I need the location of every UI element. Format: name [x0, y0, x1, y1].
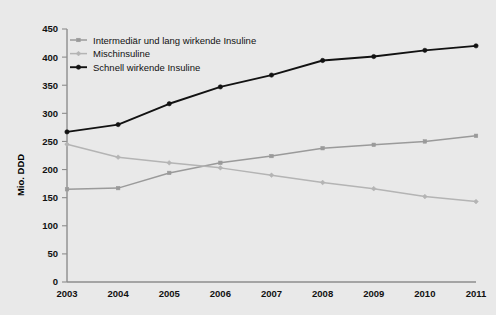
x-tick-label: 2007: [261, 288, 282, 299]
legend-label: Intermediär und lang wirkende Insuline: [93, 35, 256, 46]
data-point-marker: [116, 122, 120, 126]
x-tick-label: 2006: [210, 288, 231, 299]
y-tick-label: 50: [47, 248, 58, 259]
y-tick-label: 250: [42, 136, 58, 147]
y-tick-label: 200: [42, 164, 58, 175]
data-point-marker: [270, 154, 274, 158]
x-tick-label: 2011: [466, 288, 487, 299]
data-point-marker: [321, 146, 325, 150]
legend-item: Intermediär und lang wirkende Insuline: [70, 35, 256, 46]
data-point-marker: [167, 171, 171, 175]
data-point-marker: [372, 54, 376, 58]
data-point-marker: [423, 140, 427, 144]
legend-label: Schnell wirkende Insuline: [93, 62, 200, 73]
y-tick-label: 350: [42, 80, 58, 91]
chart-figure: Mio. DDD 050100150200250300350400450 200…: [0, 0, 496, 315]
data-point-marker: [423, 48, 427, 52]
data-point-marker: [372, 143, 376, 147]
data-point-marker: [77, 38, 81, 42]
data-point-marker: [320, 58, 324, 62]
x-tick-label: 2005: [159, 288, 181, 299]
y-axis-title: Mio. DDD: [15, 154, 26, 196]
data-point-marker: [218, 85, 222, 89]
chart-background: [0, 0, 496, 315]
data-point-marker: [269, 73, 273, 77]
data-point-marker: [116, 186, 120, 190]
line-chart: Mio. DDD 050100150200250300350400450 200…: [0, 0, 496, 315]
data-point-marker: [167, 102, 171, 106]
x-tick-label: 2008: [312, 288, 333, 299]
data-point-marker: [65, 130, 69, 134]
y-tick-label: 450: [42, 23, 58, 34]
x-axis-ticks: 200320042005200620072008200920102011: [56, 288, 487, 299]
legend-label: Mischinsuline: [93, 48, 150, 59]
x-tick-label: 2004: [108, 288, 130, 299]
x-tick-label: 2009: [363, 288, 384, 299]
x-tick-label: 2003: [56, 288, 77, 299]
x-tick-label: 2010: [414, 288, 435, 299]
data-point-marker: [65, 187, 69, 191]
data-point-marker: [474, 134, 478, 138]
y-tick-label: 400: [42, 52, 58, 63]
data-point-marker: [474, 44, 478, 48]
y-tick-label: 150: [42, 192, 58, 203]
y-tick-label: 300: [42, 108, 58, 119]
data-point-marker: [76, 65, 80, 69]
y-axis-title-text: Mio. DDD: [15, 154, 26, 196]
y-tick-label: 0: [53, 276, 58, 287]
y-tick-label: 100: [42, 220, 58, 231]
data-point-marker: [219, 161, 223, 165]
